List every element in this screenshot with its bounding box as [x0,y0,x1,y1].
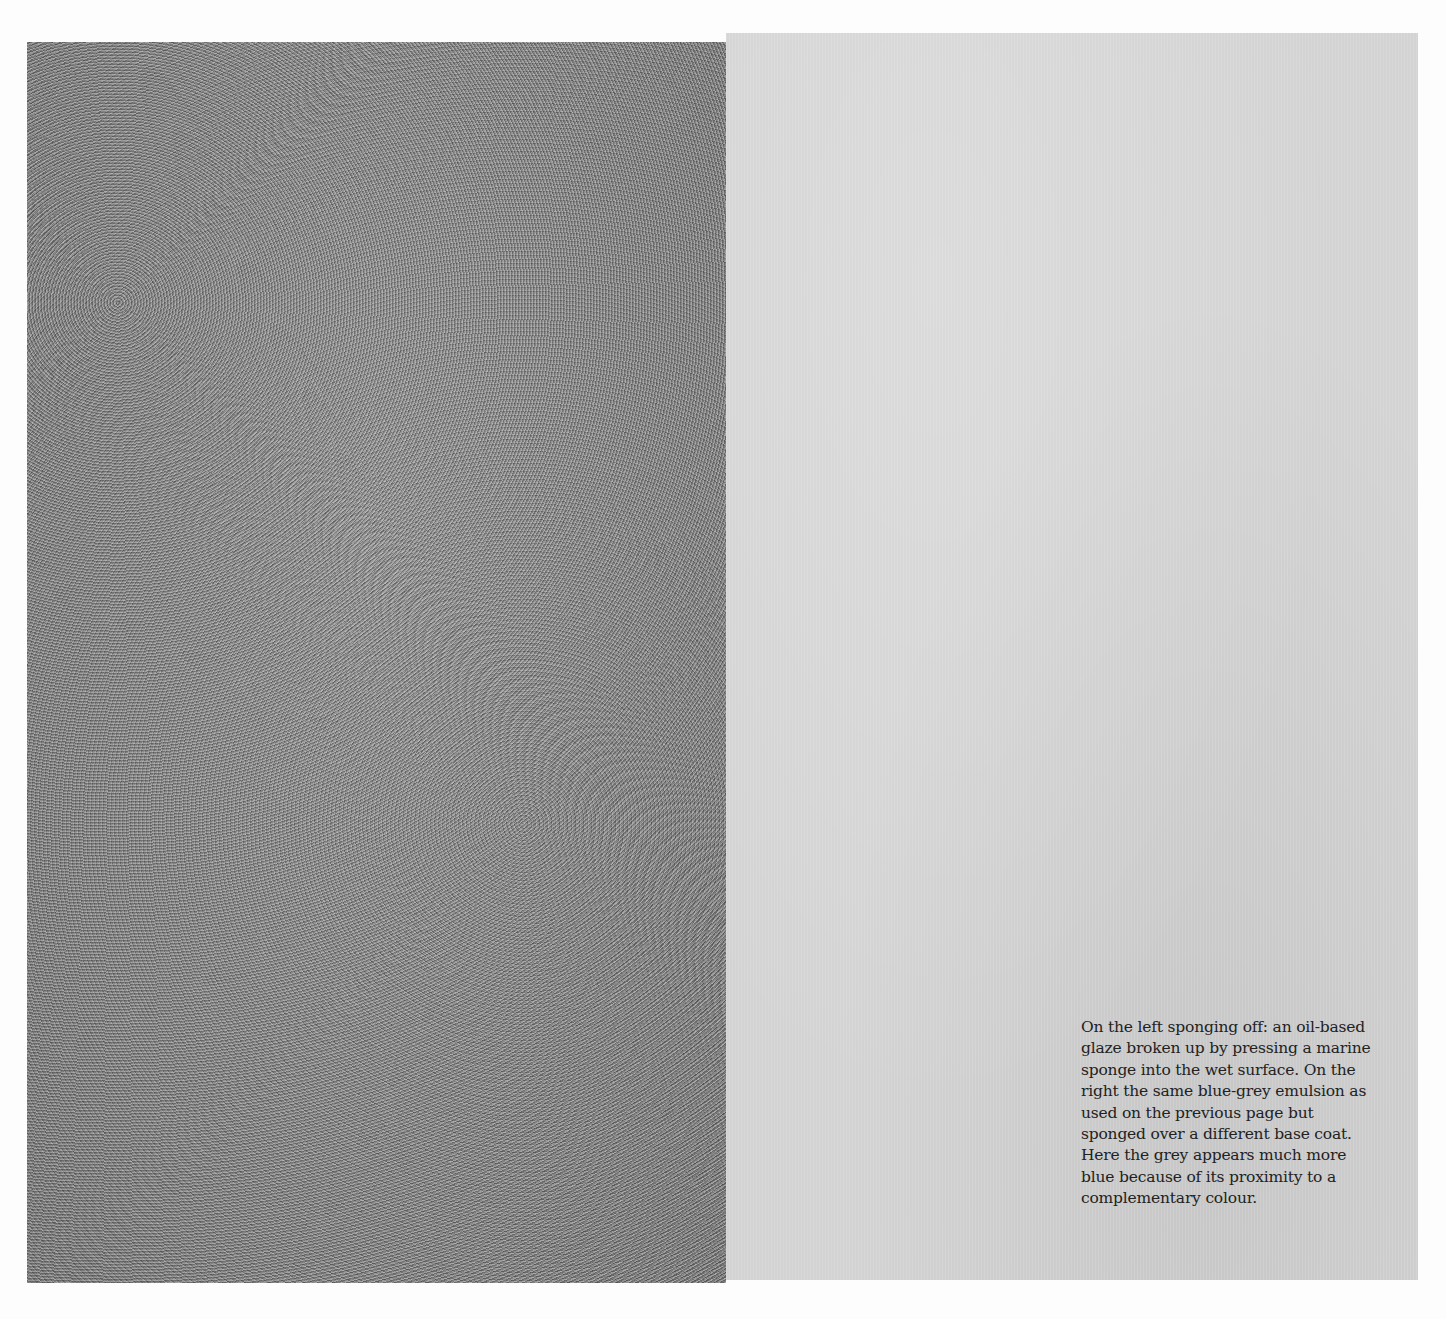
caption-line: sponged over a different base coat. [1081,1124,1381,1145]
caption-line: On the left sponging off: an oil-based [1081,1017,1381,1038]
caption-line: Here the grey appears much more [1081,1145,1381,1166]
caption-text: On the left sponging off: an oil-based g… [1081,1017,1381,1210]
caption-line: glaze broken up by pressing a marine [1081,1038,1381,1059]
sponged-oil-glaze-swatch [27,42,726,1283]
caption-line: complementary colour. [1081,1188,1381,1209]
caption-line: sponge into the wet surface. On the [1081,1060,1381,1081]
caption-line: used on the previous page but [1081,1103,1381,1124]
caption-line: blue because of its proximity to a [1081,1167,1381,1188]
caption-line: right the same blue-grey emulsion as [1081,1081,1381,1102]
